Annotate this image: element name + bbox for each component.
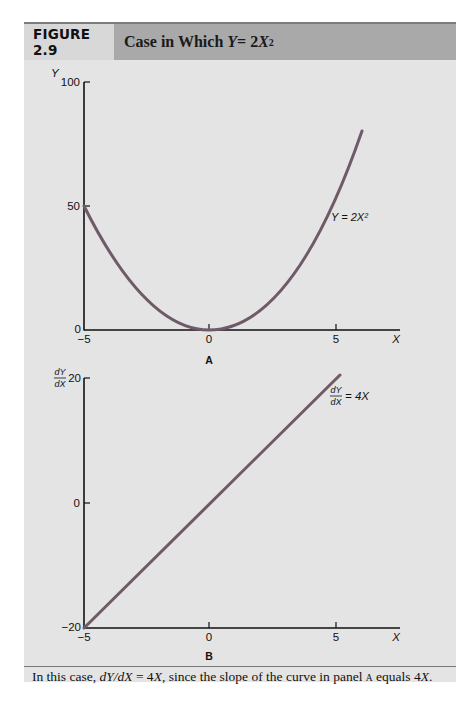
panel-b-y-label-num: dY — [54, 367, 66, 377]
caption-expr-x1: X — [154, 669, 162, 684]
charts-canvas: Y 100 50 0 −5 0 5 X Y = 2X² A dY dX 20 0… — [24, 22, 456, 666]
panel-a-chart: Y 100 50 0 −5 0 5 X Y = 2X² A — [51, 67, 401, 366]
panel-b-x-label: X — [391, 631, 401, 643]
panel-a-xtick-5: 5 — [333, 333, 339, 345]
caption-text-3: , since the slope of the curve in panel — [162, 669, 366, 684]
caption-panel-ref: A — [366, 673, 373, 683]
panel-b-line-label-rhs: = 4X — [345, 390, 370, 402]
panel-a-letter: A — [205, 354, 213, 366]
figure-caption: In this case, dY/dX = 4X, since the slop… — [24, 666, 456, 688]
caption-expr-x2: X — [421, 669, 429, 684]
figure-panel: FIGURE 2.9 Case in Which Y = 2X2 Y 100 5… — [24, 22, 456, 682]
caption-text-5: . — [429, 669, 432, 684]
panel-b-line-label-den: dX — [330, 397, 342, 407]
panel-a-xtick-neg5: −5 — [77, 333, 90, 345]
panel-a-xtick-0: 0 — [206, 333, 212, 345]
panel-b-chart: dY dX 20 0 −20 −5 0 5 X dY dX = 4X B — [54, 367, 401, 662]
panel-a-y-label: Y — [51, 67, 60, 79]
panel-a-curve-label: Y = 2X² — [331, 211, 368, 223]
panel-b-ytick-20: 20 — [68, 372, 81, 384]
caption-expr-dydx: dY/dX — [99, 669, 132, 684]
panel-b-xtick-0: 0 — [206, 631, 212, 643]
panel-b-line-label-num: dY — [330, 385, 342, 395]
panel-b-line — [84, 375, 340, 628]
panel-b-letter: B — [205, 650, 213, 662]
panel-b-y-label-den: dX — [54, 379, 66, 389]
panel-a-ytick-50: 50 — [67, 200, 80, 212]
caption-text-4: equals 4 — [373, 669, 421, 684]
panel-b-xtick-5: 5 — [333, 631, 339, 643]
caption-text-1: In this case, — [32, 669, 99, 684]
panel-b-ytick-0: 0 — [74, 497, 80, 509]
caption-text-2: = 4 — [133, 669, 154, 684]
panel-b-xtick-neg5: −5 — [77, 631, 90, 643]
panel-a-ytick-100: 100 — [61, 76, 80, 88]
panel-a-curve — [84, 131, 362, 330]
panel-a-x-label: X — [391, 333, 401, 345]
